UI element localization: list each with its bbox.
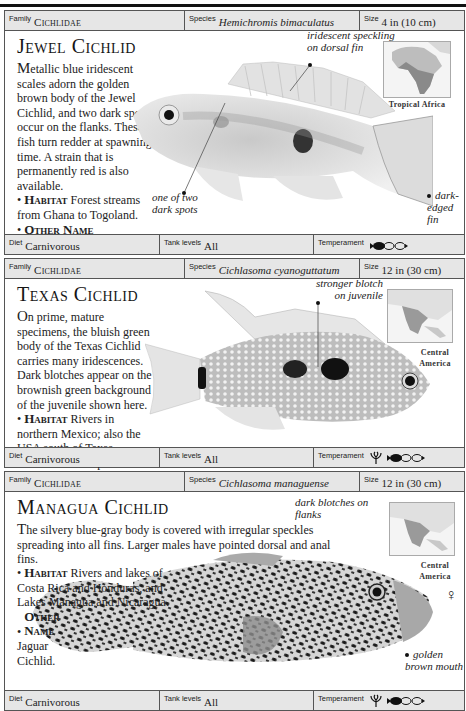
- annotation-text: dark blotches on flanks: [295, 496, 368, 520]
- temperament-cell: Temperament: [313, 691, 464, 710]
- temperament-icons: [369, 694, 426, 708]
- temperament-icons: [369, 240, 409, 252]
- species-value: Hemichromis bimaculatus: [219, 16, 334, 28]
- dropcap: T: [17, 521, 26, 537]
- diet-label: Diet: [9, 448, 22, 460]
- info-bar-top: Family Cichlidae Species Cichlasoma cyan…: [5, 259, 464, 279]
- fact-key-habitat: Habitat: [24, 192, 67, 207]
- family-label: Family: [9, 472, 31, 484]
- tank-levels-label: Tank levels: [164, 448, 201, 460]
- fact-key-other-name: Other Name: [24, 610, 84, 639]
- dropcap: M: [17, 60, 30, 76]
- tank-levels-cell: Tank levels All: [159, 448, 313, 467]
- temperament-label: Temperament: [318, 691, 364, 703]
- family-label: Family: [9, 11, 31, 23]
- bullet-dot: [427, 194, 431, 198]
- annotation-text: golden brown mouth: [405, 648, 463, 672]
- info-bar-bottom: Diet Carnivorous Tank levels All Tempera…: [5, 690, 464, 710]
- entry-description-intro: The silvery blue-gray body is covered wi…: [17, 522, 347, 567]
- central-america-map: [387, 289, 453, 343]
- family-cell: Family Cichlidae: [5, 259, 184, 278]
- species-cell: Species Hemichromis bimaculatus: [184, 11, 359, 30]
- region-label: Central America: [405, 560, 465, 582]
- fact-text-other-name: Jaguar Cichlid.: [17, 639, 72, 668]
- diet-label: Diet: [9, 235, 22, 247]
- entry-title: Jewel Cichlid: [17, 35, 136, 58]
- size-cell: Size 12 in (30 cm): [359, 472, 464, 491]
- family-cell: Family Cichlidae: [5, 472, 184, 491]
- family-label: Family: [9, 259, 31, 271]
- region-label: Central America: [405, 347, 465, 369]
- species-cell: Species Cichlasoma cyanoguttatum: [184, 259, 359, 278]
- family-cell: Family Cichlidae: [5, 11, 184, 30]
- diet-cell: Diet Carnivorous: [5, 235, 159, 254]
- annotation-mouth: golden brown mouth: [405, 648, 465, 672]
- size-label: Size: [364, 472, 379, 484]
- info-bar-bottom: Diet Carnivorous Tank levels All Tempera…: [5, 447, 464, 467]
- bullet-dot: [405, 653, 409, 657]
- info-bar-bottom: Diet Carnivorous Tank levels All Tempera…: [5, 234, 464, 254]
- diet-value: Carnivorous: [25, 240, 79, 252]
- community-fish-icon: [369, 240, 409, 252]
- tank-levels-value: All: [204, 696, 218, 708]
- description-body: he silvery blue-gray body is covered wit…: [17, 523, 330, 566]
- info-bar-top: Family Cichlidae Species Hemichromis bim…: [5, 11, 464, 31]
- annotation-tail: dark-edged fin: [427, 189, 465, 225]
- entry-description-facts: • Habitat Rivers and lakes of Costa Rica…: [17, 566, 172, 668]
- temperament-cell: Temperament: [313, 235, 464, 254]
- leader-line-spot: [180, 101, 230, 196]
- fact-key-habitat: Habitat: [24, 565, 67, 580]
- entry-jewel-cichlid: Family Cichlidae Species Hemichromis bim…: [4, 10, 465, 255]
- top-rule: [0, 4, 466, 7]
- species-label: Species: [189, 11, 216, 23]
- tank-levels-value: All: [204, 453, 218, 465]
- family-value: Cichlidae: [34, 16, 81, 28]
- dropcap: O: [17, 308, 28, 324]
- info-bar-top: Family Cichlidae Species Cichlasoma mana…: [5, 472, 464, 492]
- diet-cell: Diet Carnivorous: [5, 691, 159, 710]
- size-label: Size: [364, 259, 379, 271]
- region-label: Tropical Africa: [387, 99, 447, 110]
- africa-map: [383, 41, 451, 98]
- annotation-blotches: dark blotches on flanks: [295, 496, 385, 520]
- tank-levels-value: All: [204, 240, 218, 252]
- female-symbol: ♀: [445, 586, 457, 604]
- species-cell: Species Cichlasoma managuense: [184, 472, 359, 491]
- tank-levels-cell: Tank levels All: [159, 691, 313, 710]
- size-cell: Size 4 in (10 cm): [359, 11, 464, 30]
- size-value: 12 in (30 cm): [382, 264, 442, 276]
- tank-levels-label: Tank levels: [164, 691, 201, 703]
- size-label: Size: [364, 11, 379, 23]
- community-fish-icon: [386, 452, 426, 464]
- species-label: Species: [189, 472, 216, 484]
- tank-levels-label: Tank levels: [164, 235, 201, 247]
- leader-line-dorsal: [285, 63, 315, 93]
- species-value: Cichlasoma cyanoguttatum: [219, 264, 340, 276]
- annotation-text: stronger blotch on juvenile: [316, 277, 383, 301]
- size-value: 4 in (10 cm): [382, 16, 436, 28]
- temperament-label: Temperament: [318, 448, 364, 460]
- temperament-cell: Temperament: [313, 448, 464, 467]
- plant-icon: [369, 451, 383, 465]
- diet-cell: Diet Carnivorous: [5, 448, 159, 467]
- species-label: Species: [189, 259, 216, 271]
- temperament-label: Temperament: [318, 235, 364, 247]
- diet-value: Carnivorous: [25, 696, 79, 708]
- tank-levels-cell: Tank levels All: [159, 235, 313, 254]
- annotation-text: dark-edged fin: [427, 189, 459, 225]
- temperament-icons: [369, 451, 426, 465]
- annotation-blotch: stronger blotch on juvenile: [303, 277, 383, 301]
- description-body: n prime, mature specimens, the bluish gr…: [17, 310, 152, 412]
- entry-texas-cichlid: Family Cichlidae Species Cichlasoma cyan…: [4, 258, 465, 468]
- diet-value: Carnivorous: [25, 453, 79, 465]
- size-value: 12 in (30 cm): [382, 477, 442, 489]
- plant-icon: [369, 694, 383, 708]
- leader-line-blotch: [315, 301, 321, 369]
- description-body: etallic blue iridescent scales adorn the…: [17, 62, 152, 193]
- family-value: Cichlidae: [34, 477, 81, 489]
- community-fish-icon: [386, 695, 426, 707]
- central-america-map: [389, 502, 455, 556]
- size-cell: Size 12 in (30 cm): [359, 259, 464, 278]
- diet-label: Diet: [9, 691, 22, 703]
- family-value: Cichlidae: [34, 264, 81, 276]
